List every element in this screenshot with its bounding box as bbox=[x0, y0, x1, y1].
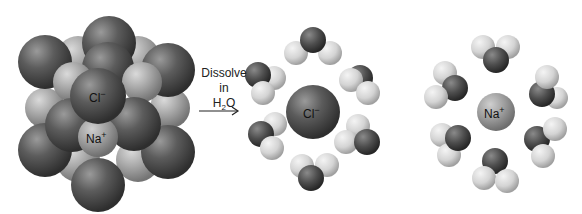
hydrated-sodium-label: Na+ bbox=[484, 106, 505, 120]
water-molecule bbox=[334, 114, 380, 155]
water-molecule bbox=[424, 61, 468, 109]
water-molecule bbox=[472, 148, 519, 193]
water-molecule bbox=[524, 117, 567, 168]
water-molecule bbox=[284, 27, 342, 65]
caption-line-in: in bbox=[196, 81, 252, 96]
nacl-crystal bbox=[18, 16, 195, 212]
caption-line-water-formula: H2O bbox=[196, 96, 252, 115]
water-molecule bbox=[290, 153, 339, 191]
nacl-dissolution-diagram: Cl− Na+ Dissolve in H2O Cl− Na+ bbox=[0, 0, 582, 214]
water-molecule bbox=[471, 35, 520, 73]
crystal-sodium-label: Na+ bbox=[86, 131, 107, 145]
hydrated-chloride-label: Cl− bbox=[303, 106, 320, 120]
crystal-chloride-label: Cl− bbox=[89, 90, 106, 104]
caption-line-dissolve: Dissolve bbox=[196, 66, 252, 81]
water-molecule bbox=[248, 112, 287, 160]
water-molecule bbox=[430, 123, 471, 167]
water-molecule bbox=[529, 65, 568, 109]
dissolve-caption: Dissolve in H2O bbox=[196, 66, 252, 115]
water-molecule bbox=[339, 65, 380, 105]
